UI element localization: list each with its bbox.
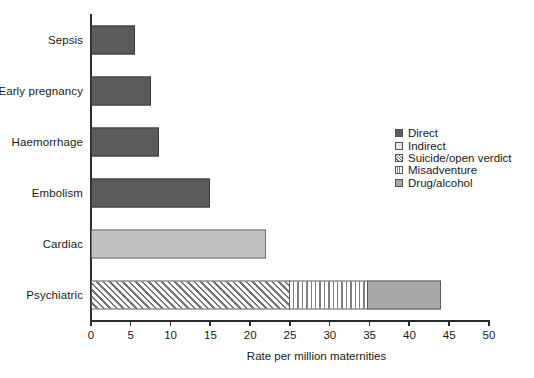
legend-item-suicide-open-verdict: Suicide/open verdict (395, 152, 512, 164)
x-tick-30 (329, 320, 331, 326)
bar-segment-direct (91, 25, 135, 54)
bar-segment-indirect (91, 229, 266, 258)
x-tick-label-45: 45 (443, 329, 456, 341)
category-label-embolism: Embolism (32, 187, 83, 199)
legend-swatch-indirect (395, 142, 403, 150)
x-tick-label-15: 15 (204, 329, 217, 341)
bar-segment-direct (91, 127, 159, 156)
x-tick-label-10: 10 (164, 329, 177, 341)
legend-label-misadventure: Misadventure (408, 164, 477, 176)
category-label-cardiac: Cardiac (43, 238, 83, 250)
plot-area: Sepsis Early pregnancy Haemorrhage Embol… (91, 14, 489, 320)
bar-early-pregnancy (91, 76, 151, 105)
bar-chart: Sepsis Early pregnancy Haemorrhage Embol… (0, 0, 534, 378)
x-tick-25 (289, 320, 291, 326)
bar-segment-direct (91, 178, 210, 207)
bar-sepsis (91, 25, 135, 54)
category-label-early-pregnancy: Early pregnancy (0, 85, 83, 97)
legend-item-direct: Direct (395, 127, 512, 139)
legend-swatch-suicide-open-verdict (395, 154, 403, 162)
legend: Direct Indirect Suicide/open verdict Mis… (395, 127, 512, 189)
legend-item-indirect: Indirect (395, 139, 512, 151)
x-tick-label-20: 20 (244, 329, 257, 341)
x-tick-40 (408, 320, 410, 326)
legend-item-misadventure: Misadventure (395, 164, 512, 176)
x-tick-label-35: 35 (363, 329, 376, 341)
x-tick-35 (369, 320, 371, 326)
x-tick-5 (130, 320, 132, 326)
bar-row-psychiatric: Psychiatric (91, 269, 489, 320)
legend-swatch-misadventure (395, 166, 403, 174)
bar-segment-misadventure (289, 280, 368, 309)
x-tick-0 (90, 320, 92, 326)
bar-row-sepsis: Sepsis (91, 14, 489, 65)
legend-label-direct: Direct (408, 127, 438, 139)
x-tick-label-0: 0 (88, 329, 94, 341)
category-label-psychiatric: Psychiatric (26, 289, 83, 301)
x-tick-45 (448, 320, 450, 326)
bar-row-early-pregnancy: Early pregnancy (91, 65, 489, 116)
x-tick-label-25: 25 (284, 329, 297, 341)
bar-psychiatric (91, 280, 441, 309)
x-tick-label-5: 5 (128, 329, 134, 341)
x-tick-20 (249, 320, 251, 326)
x-axis-title: Rate per million maternities (247, 350, 386, 362)
x-tick-50 (488, 320, 490, 326)
bar-segment-drug-alcohol (367, 280, 441, 309)
legend-label-suicide-open-verdict: Suicide/open verdict (408, 152, 512, 164)
bar-haemorrhage (91, 127, 159, 156)
category-label-sepsis: Sepsis (48, 34, 83, 46)
legend-swatch-drug-alcohol (395, 179, 403, 187)
legend-item-drug-alcohol: Drug/alcohol (395, 177, 512, 189)
x-tick-label-30: 30 (323, 329, 336, 341)
category-label-haemorrhage: Haemorrhage (12, 136, 83, 148)
legend-swatch-direct (395, 129, 403, 137)
x-tick-label-50: 50 (483, 329, 496, 341)
bar-cardiac (91, 229, 266, 258)
x-tick-15 (209, 320, 211, 326)
x-axis-title-wrap: Rate per million maternities (0, 350, 534, 362)
bar-segment-direct (91, 76, 151, 105)
bar-row-cardiac: Cardiac (91, 218, 489, 269)
legend-label-drug-alcohol: Drug/alcohol (408, 177, 473, 189)
x-tick-10 (170, 320, 172, 326)
bar-embolism (91, 178, 210, 207)
legend-label-indirect: Indirect (408, 140, 446, 152)
x-tick-label-40: 40 (403, 329, 416, 341)
bar-segment-suicide-open-verdict (91, 280, 290, 309)
